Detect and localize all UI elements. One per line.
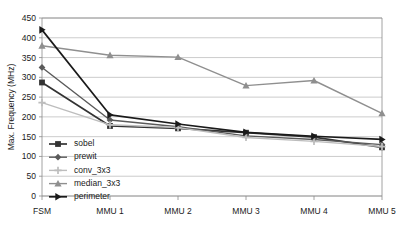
legend-label-sobel: sobel [74, 138, 94, 148]
chart-legend: sobelprewitconv_3x3median_3x3perimeter [49, 138, 121, 201]
line-chart: 050100150200250300350400450 FSMMMU 1MMU … [0, 0, 398, 241]
x-category-label-4: MMU 4 [300, 206, 328, 216]
legend-marker-sobel [55, 141, 61, 147]
data-series-group [38, 26, 385, 150]
legend-marker-prewit [55, 154, 62, 161]
legend-label-conv_3x3: conv_3x3 [74, 165, 111, 175]
series-line-perimeter [42, 30, 382, 140]
y-tick-label-400: 400 [22, 33, 36, 43]
x-axis-category-labels: FSMMMU 1MMU 2MMU 3MMU 4MMU 5 [33, 206, 396, 216]
legend-marker-conv_3x3 [54, 167, 61, 174]
y-axis-title: Max. Frequency (MHz) [6, 64, 16, 151]
x-category-label-0: FSM [33, 206, 51, 216]
data-point-conv_3x3-FSM [38, 99, 45, 106]
y-tick-label-250: 250 [22, 92, 36, 102]
legend-item-prewit[interactable]: prewit [49, 151, 97, 161]
data-point-median_3x3-MMU-5 [378, 110, 385, 117]
legend-item-conv_3x3[interactable]: conv_3x3 [49, 165, 111, 175]
legend-label-prewit: prewit [74, 151, 97, 161]
legend-label-perimeter: perimeter [74, 191, 110, 201]
legend-item-median_3x3[interactable]: median_3x3 [49, 178, 121, 188]
y-tick-label-450: 450 [22, 13, 36, 23]
y-axis-tick-labels: 050100150200250300350400450 [22, 13, 36, 201]
series-line-median_3x3 [42, 46, 382, 114]
x-category-label-3: MMU 3 [232, 206, 260, 216]
y-tick-label-0: 0 [31, 191, 36, 201]
y-tick-label-350: 350 [22, 53, 36, 63]
x-category-label-1: MMU 1 [96, 206, 124, 216]
series-perimeter [39, 26, 385, 143]
chart-container: 050100150200250300350400450 FSMMMU 1MMU … [0, 0, 398, 241]
y-tick-label-50: 50 [27, 171, 37, 181]
x-category-label-5: MMU 5 [368, 206, 396, 216]
legend-marker-perimeter [55, 193, 61, 201]
series-prewit [39, 64, 386, 148]
y-tick-label-200: 200 [22, 112, 36, 122]
data-point-sobel-FSM [39, 80, 45, 86]
y-tick-label-300: 300 [22, 72, 36, 82]
y-tick-label-150: 150 [22, 132, 36, 142]
legend-item-perimeter[interactable]: perimeter [49, 191, 110, 201]
x-category-label-2: MMU 2 [164, 206, 192, 216]
legend-item-sobel[interactable]: sobel [49, 138, 94, 148]
y-tick-label-100: 100 [22, 151, 36, 161]
legend-label-median_3x3: median_3x3 [74, 178, 121, 188]
